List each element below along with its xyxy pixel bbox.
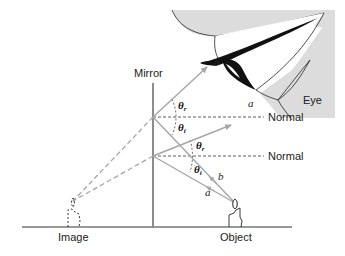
object-candle: [229, 200, 242, 228]
theta-i-lower: θi: [194, 163, 202, 177]
image-label: Image: [58, 231, 89, 243]
mirror-label: Mirror: [134, 67, 163, 79]
virtual-ray-a: [73, 156, 153, 201]
eye-label: Eye: [303, 94, 322, 106]
eye-illustration: Eye: [172, 10, 335, 120]
object-label: Object: [220, 231, 252, 243]
plane-mirror-reflection-diagram: Eye Mirror Normal Normal b a b a θr θi θ…: [0, 0, 345, 256]
theta-r-upper: θr: [178, 99, 187, 113]
image-candle: [68, 198, 80, 227]
theta-r-lower: θr: [196, 139, 205, 153]
ray-b-incident: [153, 117, 235, 203]
ray-b-lower-label: b: [218, 170, 224, 182]
ray-a-lower-label: a: [205, 186, 211, 198]
normal-lower-label: Normal: [268, 150, 303, 162]
object-flame: [233, 200, 237, 209]
virtual-ray-b: [73, 117, 153, 201]
normal-upper-label: Normal: [268, 111, 303, 123]
ray-b-upper-label: b: [214, 56, 220, 68]
ray-a-upper-label: a: [248, 97, 254, 109]
theta-i-upper: θi: [178, 121, 186, 135]
image-flame: [72, 198, 75, 207]
